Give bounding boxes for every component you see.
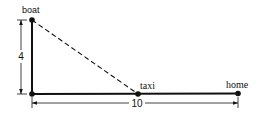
boat-taxi-home-diagram: 4 10 boat taxi home xyxy=(0,0,259,113)
horizontal-leg xyxy=(32,94,238,95)
taxi-point xyxy=(135,91,141,97)
home-label: home xyxy=(226,79,249,90)
corner-point xyxy=(29,91,35,97)
home-point xyxy=(235,91,241,97)
vertical-dimension-label: 4 xyxy=(18,51,24,62)
boat-point xyxy=(29,17,35,23)
boat-label: boat xyxy=(22,5,40,15)
dashed-path-boat-to-taxi xyxy=(32,20,138,94)
horizontal-dimension-label: 10 xyxy=(131,98,143,109)
taxi-label: taxi xyxy=(140,80,155,91)
